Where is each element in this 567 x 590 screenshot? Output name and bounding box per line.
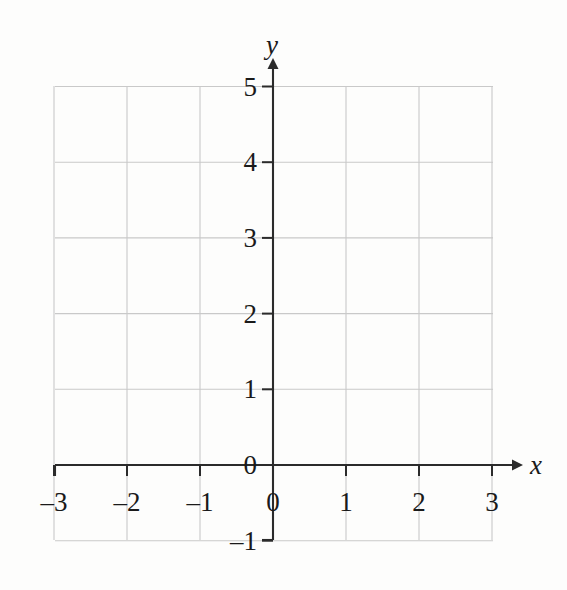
- x-tick-label: –3: [41, 489, 68, 516]
- y-tick-label: 5: [244, 73, 258, 100]
- y-tick-label: 2: [244, 300, 258, 327]
- x-tick-label: –2: [114, 489, 141, 516]
- y-tick-label: 0: [244, 452, 258, 479]
- x-tick-label: 3: [485, 489, 499, 516]
- x-tick-label: 0: [266, 489, 280, 516]
- y-tick-label: 3: [244, 224, 258, 251]
- y-tick-label: 1: [244, 376, 258, 403]
- y-tick-label: 4: [244, 149, 258, 176]
- x-axis-label: x: [530, 452, 542, 479]
- x-tick-label: 2: [412, 489, 426, 516]
- y-axis-label: y: [266, 32, 278, 59]
- x-tick-label: 1: [339, 489, 353, 516]
- x-tick-label: –1: [187, 489, 214, 516]
- tick-label-layer: –3–2–10123 543210–1 x y: [0, 0, 567, 590]
- graph-figure: –3–2–10123 543210–1 x y: [0, 0, 567, 590]
- y-tick-label: –1: [230, 527, 257, 554]
